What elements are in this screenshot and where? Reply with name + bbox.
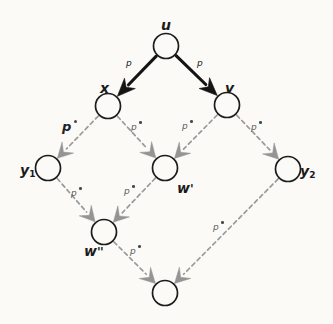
node-x[interactable] <box>96 94 121 119</box>
edge-line-y2-bottom <box>184 179 278 274</box>
node-label-wprime: w' <box>177 181 193 195</box>
node-layer <box>36 34 301 306</box>
node-label-v: v <box>225 81 234 95</box>
node-y2[interactable] <box>276 157 301 182</box>
edge-label-lbl-u-x: p <box>126 59 132 68</box>
prime-dot-icon <box>139 121 142 124</box>
prime-dot-icon <box>79 187 82 190</box>
prime-dot-icon <box>221 221 224 224</box>
prime-dot-icon <box>190 120 193 123</box>
edge-line-u-x <box>129 56 157 85</box>
node-label-y2: y2 <box>300 164 315 180</box>
diagram-graphics <box>0 0 333 324</box>
node-label-u: u <box>161 18 171 32</box>
node-wprime[interactable] <box>153 156 178 181</box>
node-v[interactable] <box>215 93 240 118</box>
edge-label-lbl-v-wprime: p <box>182 120 193 131</box>
node-wdprime[interactable] <box>92 220 117 245</box>
node-label-wdprime: w'' <box>84 244 103 258</box>
edge-label-lbl-y1-wdprime: p <box>71 187 82 198</box>
edge-label-lbl-u-v: p <box>197 59 203 68</box>
diagram-canvas: uxvy1w'y2w''pppppppppp <box>0 0 333 324</box>
prime-dot-icon <box>259 121 262 124</box>
node-label-y1: y1 <box>20 163 35 179</box>
prime-dot-icon <box>132 185 135 188</box>
prime-dot-icon <box>138 245 141 248</box>
node-u[interactable] <box>154 34 179 59</box>
edge-label-lbl-x-wprime: p <box>131 121 142 132</box>
node-y1[interactable] <box>36 156 61 181</box>
prime-dot-icon <box>74 120 77 123</box>
node-label-x: x <box>100 81 109 95</box>
edge-label-lbl-wdprime-bottom: p <box>130 245 141 256</box>
edge-label-lbl-y2-bottom: p <box>213 221 224 232</box>
edge-label-lbl-x-y1: p <box>62 120 77 133</box>
node-bottom[interactable] <box>153 281 178 306</box>
edge-label-lbl-wprime-wdprime: p <box>124 185 135 196</box>
edge-label-lbl-v-y2: p <box>251 121 262 132</box>
arrowhead-y1-wdprime <box>79 205 95 222</box>
